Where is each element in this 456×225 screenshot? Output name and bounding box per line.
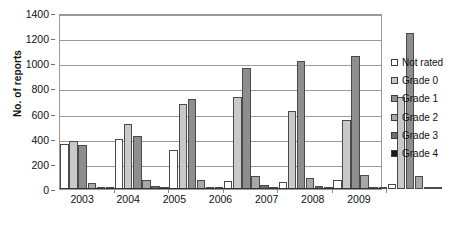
- bar-group: [169, 15, 224, 189]
- bar: [60, 144, 69, 189]
- bar: [115, 139, 124, 189]
- bar-group: [115, 15, 170, 189]
- bar-group: [333, 15, 388, 189]
- bar: [124, 124, 133, 189]
- legend-label: Grade 3: [402, 130, 438, 141]
- legend-item: Not rated: [391, 57, 443, 68]
- bar-chart: No. of reports 0200400600800100012001400…: [0, 0, 456, 225]
- y-tick-label: 400: [31, 134, 49, 146]
- legend-label: Grade 0: [402, 75, 438, 86]
- legend-swatch-icon: [391, 150, 398, 157]
- bar: [169, 150, 178, 189]
- legend-label: Not rated: [402, 57, 443, 68]
- y-tick-mark: [51, 39, 55, 40]
- bar-group: [224, 15, 279, 189]
- bar: [133, 136, 142, 189]
- y-tick-label: 600: [31, 109, 49, 121]
- x-axis-tick-labels: 2003200420052006200720082009: [59, 193, 382, 205]
- legend-item: Grade 2: [391, 112, 443, 123]
- legend-swatch-icon: [391, 132, 398, 139]
- bar: [433, 187, 442, 189]
- bar: [78, 145, 87, 189]
- x-tick-label: 2007: [244, 193, 290, 205]
- bar: [351, 56, 360, 189]
- bar: [242, 68, 251, 189]
- bar: [288, 111, 297, 189]
- bar: [69, 141, 78, 189]
- y-tick-label: 1200: [26, 33, 49, 45]
- y-tick-mark: [51, 64, 55, 65]
- y-tick-label: 200: [31, 159, 49, 171]
- bar-groups: [60, 15, 381, 189]
- legend-swatch-icon: [391, 59, 398, 66]
- legend-swatch-icon: [391, 77, 398, 84]
- legend-item: Grade 1: [391, 93, 443, 104]
- x-tick-label: 2006: [197, 193, 243, 205]
- bar: [297, 61, 306, 189]
- bar: [342, 120, 351, 189]
- legend-item: Grade 3: [391, 130, 443, 141]
- legend-label: Grade 1: [402, 93, 438, 104]
- y-tick-label: 1000: [26, 58, 49, 70]
- y-tick-mark: [51, 115, 55, 116]
- y-tick-mark: [51, 89, 55, 90]
- bar: [179, 104, 188, 189]
- x-tick-label: 2008: [290, 193, 336, 205]
- legend-label: Grade 2: [402, 112, 438, 123]
- y-tick-mark: [51, 140, 55, 141]
- y-tick-label: 0: [43, 184, 49, 196]
- legend-swatch-icon: [391, 114, 398, 121]
- legend-swatch-icon: [391, 95, 398, 102]
- bar: [188, 99, 197, 189]
- bar-group: [278, 15, 333, 189]
- y-tick-mark: [51, 165, 55, 166]
- legend: Not ratedGrade 0Grade 1Grade 2Grade 3Gra…: [391, 57, 443, 159]
- y-axis-tick-labels: 0200400600800100012001400: [0, 14, 55, 190]
- y-tick-mark: [51, 14, 55, 15]
- bar: [415, 176, 424, 189]
- y-tick-label: 1400: [26, 8, 49, 20]
- bar: [424, 187, 433, 189]
- x-tick-label: 2005: [151, 193, 197, 205]
- legend-item: Grade 0: [391, 75, 443, 86]
- legend-label: Grade 4: [402, 148, 438, 159]
- bar: [388, 184, 397, 189]
- x-tick-label: 2004: [105, 193, 151, 205]
- bar-group: [60, 15, 115, 189]
- x-tick-label: 2003: [59, 193, 105, 205]
- plot-area: [59, 14, 382, 190]
- x-axis-line: [60, 188, 381, 189]
- bar: [233, 97, 242, 189]
- legend-item: Grade 4: [391, 148, 443, 159]
- y-tick-mark: [51, 190, 55, 191]
- x-tick-label: 2009: [336, 193, 382, 205]
- y-tick-label: 800: [31, 83, 49, 95]
- bar: [360, 175, 369, 189]
